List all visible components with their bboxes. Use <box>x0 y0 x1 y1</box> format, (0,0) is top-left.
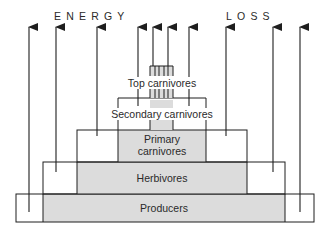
label-top-carnivores: Top carnivores <box>126 77 198 89</box>
label-primary-carnivores-line2: carnivores <box>118 145 206 157</box>
label-herbivores: Herbivores <box>77 172 247 184</box>
label-secondary-carnivores: Secondary carnivores <box>110 108 214 120</box>
label-producers: Producers <box>43 202 285 214</box>
label-primary-carnivores-line1: Primary <box>118 133 206 145</box>
title-energy: ENERGY <box>54 10 130 22</box>
title-loss: LOSS <box>226 10 275 22</box>
